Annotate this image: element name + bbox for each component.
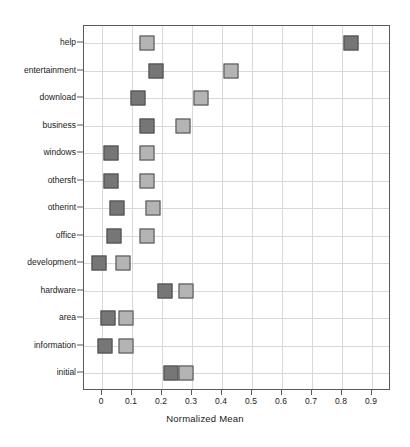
scatter-chart: helpentertainmentdownloadbusinesswindows… (0, 0, 410, 447)
y-tick-windows (77, 152, 83, 153)
x-tick-3 (191, 390, 192, 395)
marker-dark-help (344, 36, 359, 51)
marker-dark-otherint (110, 201, 125, 216)
y-tick-business (77, 124, 83, 125)
y-tick-information (77, 344, 83, 345)
marker-light-entertainment (224, 63, 239, 78)
y-axis-label-information: information (34, 340, 76, 349)
gridline-horizontal-5 (84, 181, 389, 182)
marker-light-hardware (179, 283, 194, 298)
x-tick-6 (281, 390, 282, 395)
y-tick-initial (77, 372, 83, 373)
gridline-horizontal-4 (84, 153, 389, 154)
x-axis-label-2: 0.2 (155, 397, 167, 406)
x-axis-label-7: 0.7 (305, 397, 317, 406)
gridline-horizontal-3 (84, 126, 389, 127)
x-tick-5 (251, 390, 252, 395)
marker-light-othersft (140, 173, 155, 188)
marker-dark-office (107, 228, 122, 243)
y-axis-label-help: help (60, 38, 76, 47)
y-tick-help (77, 42, 83, 43)
marker-dark-area (101, 311, 116, 326)
y-axis-label-othersft: othersft (48, 175, 76, 184)
y-axis-label-initial: initial (57, 368, 76, 377)
x-tick-8 (341, 390, 342, 395)
marker-light-development (116, 256, 131, 271)
marker-dark-download (131, 91, 146, 106)
y-axis-label-hardware: hardware (41, 285, 76, 294)
y-axis-labels: helpentertainmentdownloadbusinesswindows… (0, 0, 76, 447)
y-axis-label-business: business (42, 120, 76, 129)
marker-light-windows (140, 146, 155, 161)
marker-dark-business (140, 118, 155, 133)
x-axis-label-4: 0.4 (215, 397, 227, 406)
x-axis-label-9: 0.9 (365, 397, 377, 406)
x-axis-label-1: 0.1 (125, 397, 137, 406)
marker-light-area (119, 311, 134, 326)
y-axis-label-area: area (59, 313, 76, 322)
y-axis-label-entertainment: entertainment (24, 65, 76, 74)
x-tick-0 (101, 390, 102, 395)
x-axis-title: Normalized Mean (0, 413, 410, 424)
marker-dark-entertainment (149, 63, 164, 78)
gridline-horizontal-6 (84, 208, 389, 209)
y-axis-label-development: development (27, 258, 76, 267)
y-tick-hardware (77, 289, 83, 290)
y-tick-otherint (77, 207, 83, 208)
y-axis-label-windows: windows (43, 148, 76, 157)
x-tick-9 (371, 390, 372, 395)
x-axis-label-6: 0.6 (275, 397, 287, 406)
x-axis-label-0: 0 (99, 397, 104, 406)
x-tick-7 (311, 390, 312, 395)
y-axis-label-download: download (40, 93, 76, 102)
x-tick-2 (161, 390, 162, 395)
gridline-horizontal-9 (84, 291, 389, 292)
gridline-horizontal-7 (84, 236, 389, 237)
marker-dark-initial (164, 366, 179, 381)
y-tick-office (77, 234, 83, 235)
y-axis-label-office: office (56, 230, 76, 239)
marker-light-download (194, 91, 209, 106)
x-axis-label-8: 0.8 (335, 397, 347, 406)
y-tick-area (77, 317, 83, 318)
x-axis-label-3: 0.3 (185, 397, 197, 406)
y-tick-othersft (77, 179, 83, 180)
marker-light-office (140, 228, 155, 243)
y-axis-label-otherint: otherint (48, 203, 76, 212)
x-axis-label-5: 0.5 (245, 397, 257, 406)
marker-light-information (119, 338, 134, 353)
y-tick-development (77, 262, 83, 263)
marker-light-business (176, 118, 191, 133)
marker-light-help (140, 36, 155, 51)
marker-dark-windows (104, 146, 119, 161)
marker-dark-hardware (158, 283, 173, 298)
gridline-horizontal-12 (84, 373, 389, 374)
marker-dark-development (92, 256, 107, 271)
x-tick-4 (221, 390, 222, 395)
marker-dark-information (98, 338, 113, 353)
marker-dark-othersft (104, 173, 119, 188)
y-tick-entertainment (77, 69, 83, 70)
y-tick-download (77, 97, 83, 98)
marker-light-initial (179, 366, 194, 381)
x-tick-1 (131, 390, 132, 395)
plot-area (83, 25, 390, 390)
marker-light-otherint (146, 201, 161, 216)
